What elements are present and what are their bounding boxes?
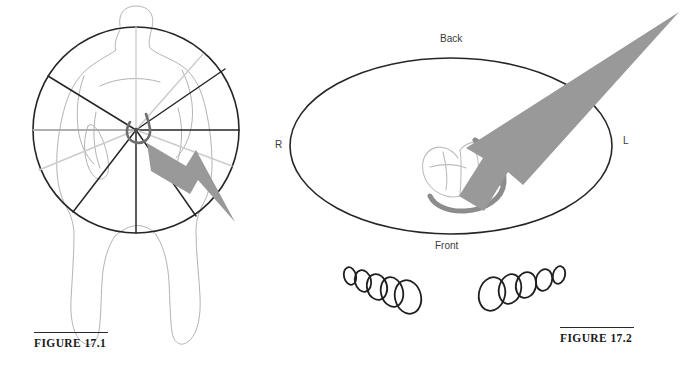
figure-17-1-caption-text: FIGURE 17.1 (34, 337, 106, 349)
orientation-label-r: R (275, 139, 282, 150)
caption-rule (560, 327, 634, 328)
figure-17-1-artwork (0, 0, 290, 368)
figure-page: FIGURE 17.1 (0, 0, 696, 368)
chain-ellipse (378, 275, 407, 309)
figure-17-2-artwork (270, 0, 696, 368)
direction-arrow (147, 143, 235, 222)
ellipse-chain-right (475, 265, 567, 314)
figure-17-1-caption: FIGURE 17.1 (34, 332, 108, 349)
figure-17-2: FIGURE 17.2 (270, 0, 696, 368)
orientation-label-back: Back (440, 33, 462, 44)
chain-ellipse (364, 272, 390, 302)
chain-ellipse (513, 270, 539, 300)
chain-ellipse (391, 277, 424, 316)
dial-spokes-light (33, 27, 232, 170)
chain-ellipse (534, 267, 555, 292)
chain-ellipse (496, 272, 525, 306)
orientation-label-front: Front (435, 240, 458, 251)
caption-rule (34, 332, 108, 333)
chain-ellipse (475, 274, 508, 313)
dial-hub-dot (134, 128, 138, 132)
direction-arrow (459, 12, 679, 211)
orientation-label-l: L (623, 135, 629, 146)
figure-17-2-caption: FIGURE 17.2 (560, 327, 634, 344)
figure-17-1: FIGURE 17.1 (0, 0, 290, 368)
chain-ellipse (551, 265, 567, 285)
ellipse-chain-left (342, 266, 425, 317)
figure-17-2-caption-text: FIGURE 17.2 (560, 332, 632, 344)
